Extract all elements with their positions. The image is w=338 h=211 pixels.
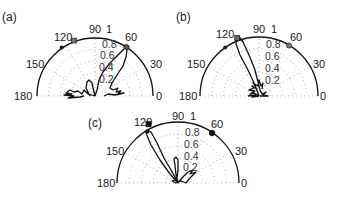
radial-label-08-b: 0.8 [266, 38, 281, 50]
marker-circle-c [209, 130, 215, 136]
angle-label-120-a: 120 [54, 31, 72, 43]
angle-label-0-c: 0 [241, 177, 247, 189]
polar-plot-a: (a) 0 30 60 90 1 120 150 180 [2, 10, 162, 102]
radial-label-06-b: 0.6 [265, 50, 280, 62]
marker-dot-b [223, 46, 227, 50]
angle-label-90-c: 90 [172, 110, 184, 122]
angle-label-180-a: 180 [14, 90, 32, 102]
radial-label-06-c: 0.6 [184, 138, 199, 150]
panel-label-c: (c) [88, 116, 102, 130]
marker-dot-c [146, 130, 150, 134]
angle-label-60-a: 60 [125, 31, 137, 43]
marker-circle-a [124, 44, 129, 49]
radial-label-1-a: 1 [106, 23, 112, 35]
angle-label-180-c: 180 [97, 177, 115, 189]
angle-label-90-b: 90 [253, 23, 265, 35]
angle-label-90-a: 90 [89, 23, 101, 35]
polar-plot-b: (b) 0 30 60 90 1 120 150 180 0.8 0.6 0.4… [176, 10, 326, 102]
angle-label-150-b: 150 [187, 58, 205, 70]
radial-label-02-c: 0.2 [183, 161, 198, 173]
panel-label-b: (b) [176, 10, 191, 24]
angle-label-120-b: 120 [216, 28, 234, 40]
radial-label-1-b: 1 [271, 23, 277, 35]
angle-label-150-a: 150 [26, 58, 44, 70]
radial-label-1-c: 1 [190, 110, 196, 122]
angle-label-60-b: 60 [290, 31, 302, 43]
angle-label-0-a: 0 [156, 90, 162, 102]
marker-circle-b [286, 43, 291, 48]
marker-square-b [235, 36, 240, 41]
radial-grid-a [37, 38, 153, 96]
panel-label-a: (a) [2, 10, 17, 24]
radial-label-04-a: 0.4 [99, 61, 114, 73]
angle-label-30-a: 30 [150, 58, 162, 70]
angle-label-60-c: 60 [211, 118, 223, 130]
radial-label-06-a: 0.6 [100, 49, 115, 61]
angle-label-30-b: 30 [313, 58, 325, 70]
radial-label-04-b: 0.4 [265, 62, 280, 74]
angle-label-0-b: 0 [320, 90, 326, 102]
angle-label-30-c: 30 [235, 145, 247, 157]
beam-pattern-b [236, 38, 268, 97]
polar-figure: (a) 0 30 60 90 1 120 150 180 [0, 0, 338, 211]
polar-plot-c: (c) 0 30 60 90 1 120 150 180 0.8 0.6 0.4… [88, 110, 247, 189]
radial-label-08-c: 0.8 [185, 126, 200, 138]
angle-label-150-c: 150 [106, 145, 124, 157]
marker-dot-a [60, 46, 64, 50]
angle-label-120-c: 120 [134, 116, 152, 128]
radial-label-02-a: 0.2 [99, 73, 114, 85]
radial-label-02-b: 0.2 [265, 74, 280, 86]
angle-label-180-b: 180 [179, 90, 197, 102]
